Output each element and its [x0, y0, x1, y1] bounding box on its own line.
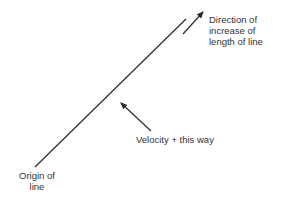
direction-label: Direction of increase of length of line [209, 14, 263, 47]
velocity-label: Velocity + this way [136, 134, 214, 145]
direction-arrow [183, 12, 203, 34]
origin-label-line-1: Origin of [14, 170, 60, 181]
direction-label-line-1: Direction of [209, 14, 263, 25]
direction-label-line-3: length of line [209, 36, 263, 47]
origin-label-line-2: line [14, 181, 60, 192]
origin-label: Origin of line [14, 170, 60, 192]
velocity-arrow [121, 103, 151, 131]
direction-label-line-2: increase of [209, 25, 263, 36]
